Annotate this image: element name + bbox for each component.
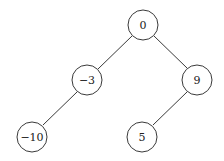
tree-node-5: 5 xyxy=(127,122,157,152)
tree-node-9: 9 xyxy=(182,65,212,95)
edge-9-to-5 xyxy=(153,92,187,125)
tree-node-neg10: −10 xyxy=(17,122,47,152)
edge-0-to-neg3 xyxy=(98,36,132,69)
node-label: −3 xyxy=(79,74,95,87)
edge-neg3-to-neg10 xyxy=(43,92,77,125)
node-label: 0 xyxy=(140,19,147,32)
tree-node-neg3: −3 xyxy=(72,65,102,95)
node-label: 9 xyxy=(194,74,201,87)
binary-tree-diagram: 0 −3 9 −10 5 xyxy=(0,0,224,161)
tree-node-0: 0 xyxy=(128,10,158,40)
edge-0-to-9 xyxy=(154,36,187,68)
node-label: −10 xyxy=(20,131,43,144)
node-label: 5 xyxy=(139,131,146,144)
edges xyxy=(43,36,187,125)
